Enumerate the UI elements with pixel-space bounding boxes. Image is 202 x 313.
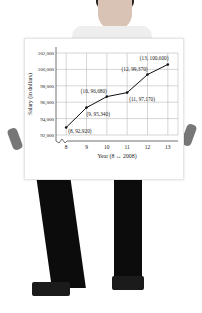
data-point-label: (8, 92,920) — [68, 128, 92, 135]
data-point — [65, 126, 68, 129]
data-point-label: (11, 97,170) — [129, 96, 155, 103]
data-point — [85, 106, 88, 109]
right-shoe — [112, 276, 144, 290]
axis-break — [56, 135, 178, 143]
data-point-label: (9, 95,340) — [87, 111, 111, 118]
data-point — [126, 91, 129, 94]
y-tick-label: 96,000 — [40, 100, 54, 106]
x-tick-label: 13 — [165, 144, 171, 150]
data-point — [106, 95, 109, 98]
left-hand — [7, 127, 24, 151]
right-leg — [114, 176, 142, 280]
left-shoe — [32, 282, 70, 296]
chart-board: 92,00094,00096,00098,000100,000102,00089… — [24, 38, 184, 180]
y-tick-label: 100,000 — [38, 67, 55, 73]
y-tick-label: 92,000 — [40, 133, 54, 139]
y-tick-label: 94,000 — [40, 117, 54, 123]
data-point-label: (12, 99,370) — [122, 66, 148, 73]
y-tick-label: 102,000 — [38, 51, 55, 57]
line-chart: 92,00094,00096,00098,000100,000102,00089… — [25, 39, 183, 179]
x-tick-label: 10 — [104, 144, 110, 150]
x-tick-label: 11 — [125, 144, 131, 150]
y-axis-label: Salary (in dollars) — [27, 73, 34, 115]
data-point — [146, 73, 149, 76]
x-tick-label: 8 — [65, 144, 68, 150]
left-leg — [36, 176, 86, 288]
data-point — [167, 63, 170, 66]
x-tick-label: 12 — [145, 144, 151, 150]
x-axis-label: Year (8 ↔ 2008) — [97, 153, 136, 160]
y-tick-label: 98,000 — [40, 84, 54, 90]
data-point-label: (13, 100,600) — [140, 55, 169, 62]
x-tick-label: 9 — [85, 144, 88, 150]
data-point-label: (10, 96,680) — [81, 88, 107, 95]
